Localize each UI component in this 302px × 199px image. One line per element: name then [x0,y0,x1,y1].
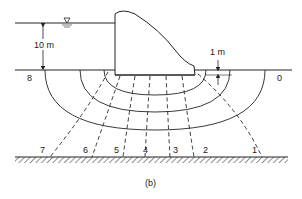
flow-line-label-5: 5 [114,145,119,155]
flow-line-label-7: 7 [40,145,45,155]
flow-lines [50,72,262,157]
flow-net-diagram: 10 m 1 m 8 0 7 6 5 4 3 2 1 (b) [0,0,302,199]
flow-line-label-2: 2 [203,145,208,155]
figure-caption: (b) [145,178,156,188]
flow-line-label-6: 6 [83,145,88,155]
impervious-layer-hatch [15,157,144,163]
equipotential-lines [45,70,265,130]
equipotential-label-upstream: 8 [27,73,32,83]
flow-line-label-1: 1 [252,145,257,155]
head-label: 10 m [34,40,54,50]
equipotential-label-downstream: 0 [277,73,282,83]
embedment-label: 1 m [210,47,225,57]
flow-line-label-3: 3 [173,145,178,155]
dam-body [115,11,195,75]
flow-line-label-4: 4 [143,145,148,155]
